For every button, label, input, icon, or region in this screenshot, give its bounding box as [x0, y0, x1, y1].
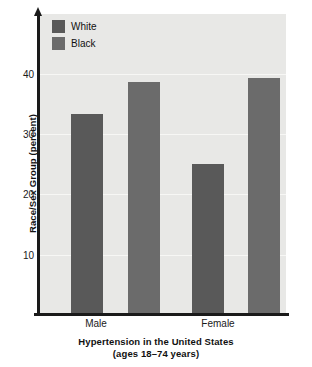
y-tick-label-40: 40	[4, 69, 34, 80]
y-axis-arrow-icon	[34, 7, 42, 16]
bar-white-female	[192, 164, 224, 314]
caption-line-2: (ages 18–74 years)	[0, 348, 312, 360]
legend-label-black: Black	[71, 38, 95, 49]
bar-black-male	[128, 82, 160, 314]
legend-swatch-white-icon	[52, 20, 65, 33]
legend-label-white: White	[71, 21, 97, 32]
chart-caption: Hypertension in the United States (ages …	[0, 336, 312, 360]
legend-item-white: White	[52, 20, 97, 33]
bar-white-male	[71, 114, 103, 314]
legend: White Black	[52, 20, 97, 54]
x-tick-label-female: Female	[201, 318, 234, 329]
y-tick-label-30: 30	[4, 129, 34, 140]
gridline-40	[39, 74, 286, 75]
caption-line-1: Hypertension in the United States	[0, 336, 312, 348]
y-axis-ticks: 40 30 20 10	[0, 0, 34, 367]
x-tick-label-male: Male	[85, 318, 107, 329]
y-tick-label-10: 10	[4, 250, 34, 261]
x-axis-line	[34, 313, 289, 316]
legend-item-black: Black	[52, 37, 97, 50]
bar-chart-figure: Race/Sex Group (percent) 40 30 20 10 Mal…	[0, 0, 312, 367]
bar-black-female	[248, 78, 280, 314]
plot-area	[39, 14, 286, 314]
y-tick-label-20: 20	[4, 189, 34, 200]
y-axis-line	[37, 14, 40, 314]
legend-swatch-black-icon	[52, 37, 65, 50]
